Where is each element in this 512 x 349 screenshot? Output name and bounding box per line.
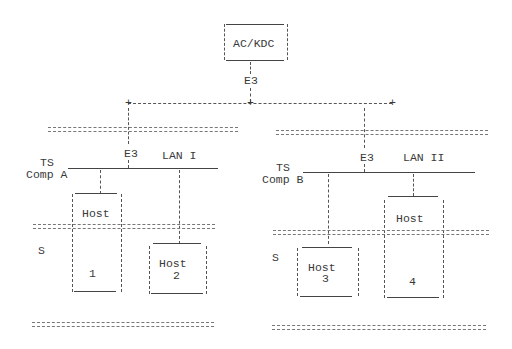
left-upper-boundary — [48, 127, 238, 132]
left-lan-label: LAN I — [162, 150, 197, 162]
right-bottom-boundary — [272, 325, 486, 330]
host4-box-top — [388, 196, 438, 197]
right-mid-boundary — [273, 230, 489, 235]
host1-box-bottom — [74, 291, 116, 292]
host1-number: 1 — [89, 268, 96, 280]
host3-box-bottom — [300, 296, 352, 297]
right-lan-label: LAN II — [403, 152, 444, 164]
host4-label: Host — [396, 213, 424, 225]
top-link-line-upper — [250, 62, 251, 74]
right-e3-drop — [364, 164, 365, 172]
left-branch-line — [128, 108, 129, 144]
host1-drop — [100, 170, 101, 194]
right-security-label: S — [272, 252, 279, 264]
right-link-label: E3 — [360, 152, 374, 164]
host1-label: Host — [82, 208, 110, 220]
host4-box-bottom — [387, 297, 439, 298]
left-bottom-boundary — [32, 322, 214, 327]
left-e3-drop — [128, 160, 129, 168]
lan-i-bus — [68, 168, 218, 169]
host2-number: 2 — [173, 270, 180, 282]
ac-kdc-box-bottom — [226, 60, 284, 61]
junction-center: + — [247, 97, 254, 109]
left-ts-label-line2: Comp A — [26, 169, 67, 181]
backbone-dashed-line — [128, 103, 392, 104]
host2-box-bottom — [151, 293, 203, 294]
junction-right: + — [389, 97, 396, 109]
right-upper-boundary — [276, 130, 488, 135]
left-security-label: S — [38, 245, 45, 257]
host4-drop — [413, 174, 414, 196]
top-link-label: E3 — [244, 75, 258, 87]
host3-number: 3 — [322, 273, 329, 285]
host4-number: 4 — [409, 276, 416, 288]
lan-ii-bus — [303, 172, 475, 173]
ac-kdc-label: AC/KDC — [233, 38, 274, 50]
right-ts-label-line2: Comp B — [262, 174, 303, 186]
host2-box-top — [153, 243, 201, 244]
left-link-label: E3 — [124, 148, 138, 160]
host2-drop — [179, 170, 180, 244]
ac-kdc-box-top — [226, 24, 284, 25]
right-branch-line — [364, 108, 365, 148]
left-mid-boundary — [33, 224, 215, 229]
